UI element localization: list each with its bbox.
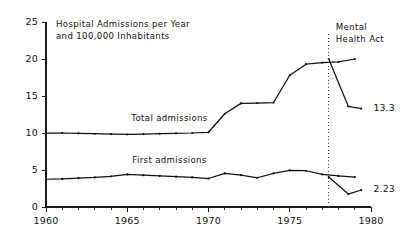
y-tick-label-15: 15 [26, 90, 39, 101]
data-point [224, 172, 226, 174]
series-label-2: First admissions [132, 155, 207, 165]
data-point [289, 74, 291, 76]
data-point [61, 178, 63, 180]
chart-container: 0510152025 19601965197019751980 MentalHe… [0, 0, 407, 243]
x-tick-label-1975: 1975 [277, 215, 302, 226]
x-tick-label-1965: 1965 [115, 215, 140, 226]
data-point [360, 107, 362, 109]
data-point [305, 170, 307, 172]
data-point [289, 169, 291, 171]
data-point [347, 105, 349, 107]
event-label-line2: Health Act [336, 34, 385, 44]
data-point [126, 133, 128, 135]
data-point [61, 132, 63, 134]
end-value-label-2: 2.23 [373, 183, 395, 194]
data-point [240, 102, 242, 104]
x-tick-label-1960: 1960 [34, 215, 59, 226]
chart-title-line2: and 100,000 Inhabitants [56, 31, 170, 41]
chart-title-line1: Hospital Admissions per Year [56, 19, 190, 29]
y-tick-label-0: 0 [32, 201, 38, 212]
data-point [321, 173, 323, 175]
series-label-1: Total admissions [130, 113, 208, 123]
line-chart: 0510152025 19601965197019751980 MentalHe… [0, 0, 407, 243]
data-point [256, 102, 258, 104]
data-point [77, 177, 79, 179]
y-tick-label-5: 5 [32, 164, 38, 175]
data-point [45, 132, 47, 134]
data-point [354, 176, 356, 178]
data-point [94, 176, 96, 178]
data-point [191, 176, 193, 178]
data-point [305, 63, 307, 65]
data-point [191, 132, 193, 134]
data-point [159, 133, 161, 135]
data-point [159, 175, 161, 177]
data-point [207, 131, 209, 133]
x-tick-label-1970: 1970 [196, 215, 221, 226]
data-point [272, 172, 274, 174]
data-point [256, 177, 258, 179]
end-value-label-1: 13.3 [373, 102, 395, 113]
data-point [272, 102, 274, 104]
y-tick-label-20: 20 [26, 53, 39, 64]
data-point [94, 133, 96, 135]
data-point [142, 174, 144, 176]
data-point [142, 133, 144, 135]
y-tick-label-25: 25 [26, 16, 39, 27]
x-tick-label-1980: 1980 [359, 215, 384, 226]
data-point [337, 175, 339, 177]
data-point [45, 178, 47, 180]
data-point [321, 62, 323, 64]
data-point [337, 61, 339, 63]
data-point [360, 189, 362, 191]
data-point [110, 133, 112, 135]
data-point [240, 174, 242, 176]
event-label-line1: Mental [336, 22, 367, 32]
data-point [77, 132, 79, 134]
y-tick-label-10: 10 [26, 127, 39, 138]
data-point [224, 113, 226, 115]
data-point [207, 177, 209, 179]
data-point [110, 175, 112, 177]
data-point [175, 176, 177, 178]
data-point [175, 132, 177, 134]
data-point [347, 193, 349, 195]
data-point [126, 173, 128, 175]
data-point [354, 58, 356, 60]
